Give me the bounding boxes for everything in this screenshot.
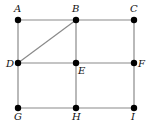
- node-b: [73, 17, 79, 23]
- node-label-g: G: [14, 111, 22, 122]
- node-label-d: D: [5, 58, 14, 69]
- graph-diagram: ABCDEFGHI: [0, 0, 151, 123]
- node-label-a: A: [13, 3, 21, 14]
- node-d: [15, 60, 21, 66]
- node-label-c: C: [130, 3, 138, 14]
- node-label-f: F: [137, 58, 146, 69]
- node-label-b: B: [71, 3, 79, 14]
- node-a: [15, 17, 21, 23]
- node-label-e: E: [77, 65, 86, 76]
- node-label-h: H: [71, 111, 81, 122]
- node-label-i: I: [130, 111, 136, 122]
- edge-b-d: [18, 20, 76, 63]
- node-f: [131, 60, 137, 66]
- node-c: [131, 17, 137, 23]
